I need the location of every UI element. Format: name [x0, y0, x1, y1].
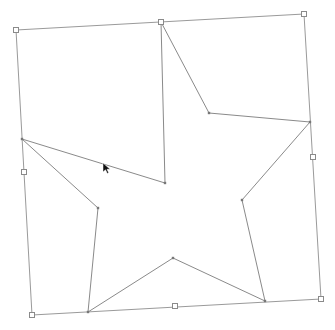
- corner-resize-handle[interactable]: [319, 297, 324, 302]
- star-vertex-node: [97, 207, 99, 209]
- star-vertex-node: [164, 182, 166, 184]
- star-vertex-node: [264, 300, 266, 302]
- star-vertex-node: [87, 311, 89, 313]
- star-shape[interactable]: [22, 22, 310, 312]
- edge-resize-handle[interactable]: [159, 20, 164, 25]
- star-vertex-node: [241, 199, 243, 201]
- star-vertex-node: [208, 112, 210, 114]
- star-vertex-node: [172, 257, 174, 259]
- drawing-canvas[interactable]: [0, 0, 335, 330]
- star-vertex-node: [309, 121, 311, 123]
- corner-resize-handle[interactable]: [302, 12, 307, 17]
- corner-resize-handle[interactable]: [14, 28, 19, 33]
- star-vertex-node: [21, 138, 23, 140]
- edge-resize-handle[interactable]: [311, 155, 316, 160]
- corner-resize-handle[interactable]: [30, 313, 35, 318]
- edge-resize-handle[interactable]: [173, 304, 178, 309]
- edge-resize-handle[interactable]: [22, 170, 27, 175]
